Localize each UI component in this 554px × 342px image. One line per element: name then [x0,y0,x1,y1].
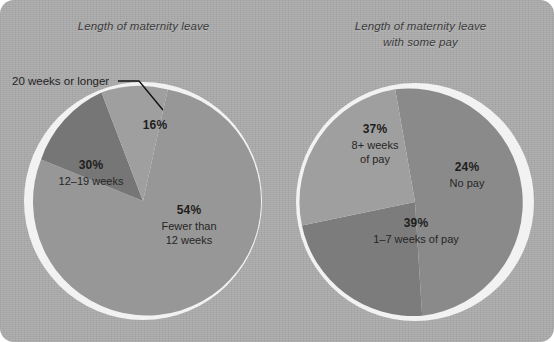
left-chart-panel: Length of maternity leave 16% 30% 12–19 … [0,0,287,342]
right-slice-37[interactable] [299,89,415,225]
right-pie-chart [292,79,538,325]
right-chart-panel: Length of maternity leave with some pay … [287,0,554,342]
right-chart-title: Length of maternity leave with some pay [287,19,554,50]
figure-container: Length of maternity leave 16% 30% 12–19 … [0,0,554,342]
right-chart-title-line1: Length of maternity leave [287,19,554,35]
leader-line-icon [0,0,287,342]
right-chart-title-line2: with some pay [287,35,554,51]
